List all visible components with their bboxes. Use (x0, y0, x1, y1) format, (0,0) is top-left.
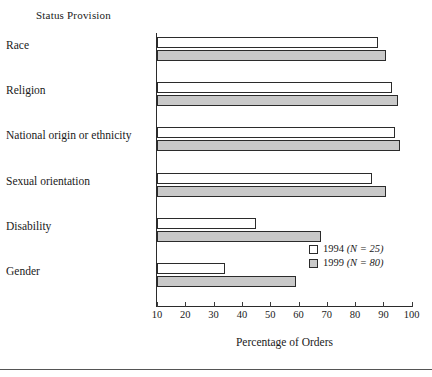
x-tick-60 (299, 302, 300, 307)
x-tick-100 (412, 302, 413, 307)
legend-label-1994: 1994 (N = 25) (323, 242, 383, 256)
bar-1994-4 (157, 218, 256, 229)
category-label-4: Disability (6, 220, 51, 232)
category-label-0: Race (6, 39, 29, 51)
legend-swatch-1999 (309, 259, 318, 268)
x-tick-label-40: 40 (229, 309, 255, 320)
x-axis-line (156, 306, 413, 307)
x-tick-20 (185, 302, 186, 307)
bar-1994-0 (157, 37, 378, 48)
legend-label-1999: 1999 (N = 80) (323, 256, 383, 270)
legend: 1994 (N = 25) 1999 (N = 80) (309, 242, 383, 270)
x-tick-label-100: 100 (399, 309, 425, 320)
legend-swatch-1994 (309, 245, 318, 254)
legend-n: (N = 80) (347, 257, 384, 268)
plot-area: 102030405060708090100 RaceReligionNation… (0, 0, 432, 377)
x-tick-label-20: 20 (172, 309, 198, 320)
x-tick-90 (383, 302, 384, 307)
bar-1999-5 (157, 276, 296, 287)
figure: Status Provision 102030405060708090100 R… (0, 0, 432, 377)
legend-year: 1994 (323, 243, 347, 254)
footer-rule (0, 369, 432, 370)
bar-1999-0 (157, 50, 386, 61)
x-tick-label-30: 30 (201, 309, 227, 320)
bar-1999-4 (157, 231, 321, 242)
x-tick-label-70: 70 (314, 309, 340, 320)
x-tick-70 (327, 302, 328, 307)
bar-1994-1 (157, 82, 392, 93)
bar-1999-2 (157, 140, 400, 151)
legend-n: (N = 25) (347, 243, 384, 254)
x-axis-title: Percentage of Orders (156, 336, 413, 348)
legend-item-1999: 1999 (N = 80) (309, 256, 383, 270)
x-tick-30 (214, 302, 215, 307)
x-tick-label-10: 10 (144, 309, 170, 320)
legend-year: 1999 (323, 257, 347, 268)
x-tick-10 (157, 302, 158, 307)
category-label-5: Gender (6, 265, 40, 277)
category-label-2: National origin or ethnicity (6, 129, 132, 141)
x-tick-40 (242, 302, 243, 307)
bar-1994-2 (157, 127, 395, 138)
x-tick-label-60: 60 (286, 309, 312, 320)
x-tick-80 (355, 302, 356, 307)
bar-1994-5 (157, 263, 225, 274)
x-tick-label-50: 50 (257, 309, 283, 320)
x-tick-label-80: 80 (342, 309, 368, 320)
bar-1999-3 (157, 186, 386, 197)
x-tick-50 (270, 302, 271, 307)
bar-1994-3 (157, 173, 372, 184)
category-label-3: Sexual orientation (6, 175, 90, 187)
legend-item-1994: 1994 (N = 25) (309, 242, 383, 256)
category-label-1: Religion (6, 84, 46, 96)
bar-1999-1 (157, 95, 398, 106)
x-tick-label-90: 90 (370, 309, 396, 320)
